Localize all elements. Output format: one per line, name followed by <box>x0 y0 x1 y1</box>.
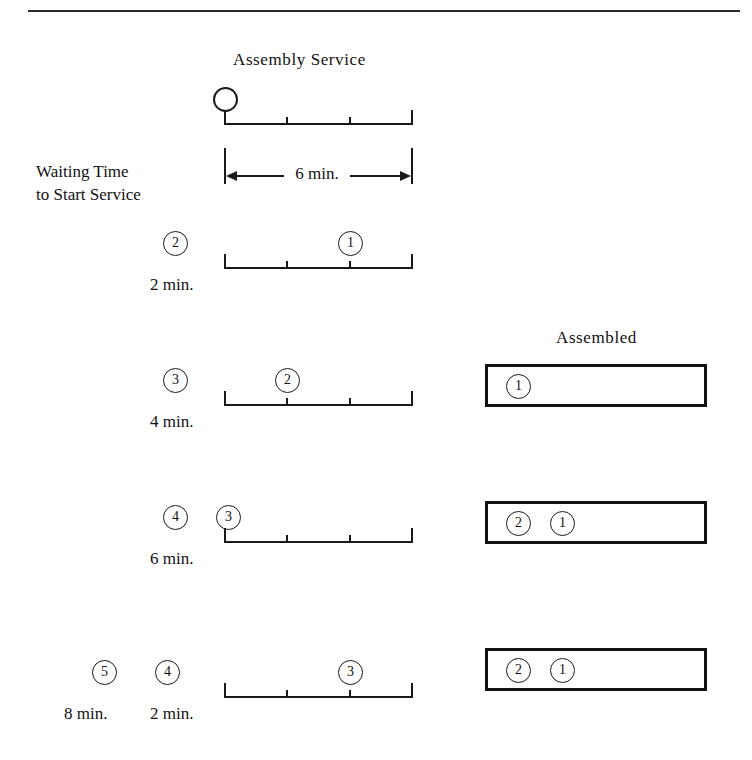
service-bar-cap-left <box>224 683 226 698</box>
diagram-canvas: Assembly Service Assembled Waiting Time … <box>0 0 752 760</box>
service-bar-axis <box>224 123 413 125</box>
service-bar-tick-1 <box>286 398 288 406</box>
service-token-row-3: 3 <box>216 505 241 530</box>
waiting-time-row-2-pos-0: 4 min. <box>150 412 193 432</box>
dimension-arrow-right-icon <box>400 171 411 181</box>
service-bar-tick-1 <box>286 690 288 698</box>
dimension-segment-left <box>235 175 288 177</box>
service-bar-tick-2 <box>349 690 351 698</box>
dimension-label: 6 min. <box>284 164 350 184</box>
assembled-token-row-2-pos-0: 1 <box>506 374 531 399</box>
waiting-time-label-line2: to Start Service <box>36 183 141 206</box>
assembled-bin-row-4: 2 1 <box>485 648 707 691</box>
service-bar-row-3 <box>224 528 413 543</box>
waiting-token-row-1-pos-0: 2 <box>163 231 188 256</box>
waiting-token-row-4-pos-0: 5 <box>92 660 117 685</box>
service-bar-axis <box>224 541 413 543</box>
top-divider-rule <box>28 10 740 12</box>
service-bar-cap-left <box>224 110 226 125</box>
assembled-token-row-3-pos-0: 2 <box>506 511 531 536</box>
assembled-token-row-4-pos-0: 2 <box>506 658 531 683</box>
service-bar-tick-2 <box>349 535 351 543</box>
service-bar-axis <box>224 267 413 269</box>
service-token-row-1: 1 <box>338 231 363 256</box>
waiting-time-label: Waiting Time to Start Service <box>36 160 141 206</box>
dimension-extension-right <box>411 148 413 184</box>
service-token-row-4: 3 <box>338 660 363 685</box>
service-bar-axis <box>224 696 413 698</box>
service-bar-tick-1 <box>286 535 288 543</box>
service-bar-row-2 <box>224 391 413 406</box>
assembled-token-row-3-pos-1: 1 <box>550 511 575 536</box>
service-bar-tick-2 <box>349 261 351 269</box>
assembled-title: Assembled <box>556 328 637 348</box>
assembled-bin-row-3: 2 1 <box>485 501 707 544</box>
waiting-time-label-line1: Waiting Time <box>36 160 141 183</box>
service-bar-tick-1 <box>286 261 288 269</box>
service-bar-cap-left <box>224 254 226 269</box>
service-bar-row-4 <box>224 683 413 698</box>
service-bar-cap-right <box>411 391 413 406</box>
waiting-token-row-3-pos-0: 4 <box>163 505 188 530</box>
service-token-row-0 <box>213 87 238 112</box>
service-bar-cap-right <box>411 254 413 269</box>
waiting-token-row-4-pos-1: 4 <box>155 660 180 685</box>
service-bar-cap-right <box>411 110 413 125</box>
service-duration-dimension: 6 min. <box>224 148 413 186</box>
service-bar-tick-2 <box>349 117 351 125</box>
waiting-time-row-1-pos-0: 2 min. <box>150 275 193 295</box>
assembled-token-row-4-pos-1: 1 <box>550 658 575 683</box>
service-bar-row-0 <box>224 110 413 125</box>
assembly-service-title: Assembly Service <box>233 50 366 70</box>
waiting-time-row-3-pos-0: 6 min. <box>150 549 193 569</box>
service-token-row-2: 2 <box>275 368 300 393</box>
waiting-time-row-4-pos-0: 8 min. <box>64 704 107 724</box>
service-bar-cap-right <box>411 683 413 698</box>
dimension-segment-right <box>349 175 402 177</box>
service-bar-cap-right <box>411 528 413 543</box>
service-bar-tick-1 <box>286 117 288 125</box>
assembled-bin-row-2: 1 <box>485 364 707 407</box>
waiting-time-row-4-pos-1: 2 min. <box>150 704 193 724</box>
service-bar-axis <box>224 404 413 406</box>
waiting-token-row-2-pos-0: 3 <box>163 368 188 393</box>
service-bar-cap-left <box>224 528 226 543</box>
service-bar-row-1 <box>224 254 413 269</box>
service-bar-tick-2 <box>349 398 351 406</box>
service-bar-cap-left <box>224 391 226 406</box>
